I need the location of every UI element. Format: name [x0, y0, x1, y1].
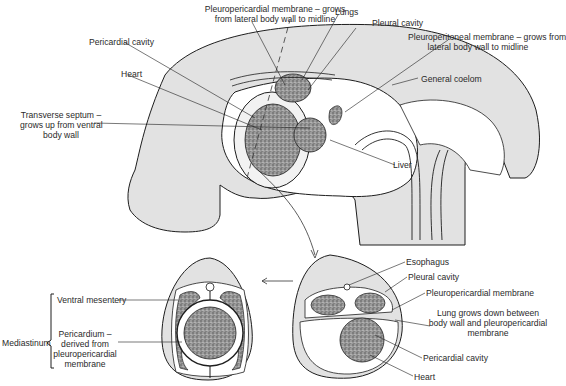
label-line: body wall and pleuropericardial — [428, 318, 548, 328]
label-line: Lung grows down between — [428, 308, 548, 318]
label-pericardium: Pericardium – derived from pleuropericar… — [52, 329, 118, 369]
heart-shape — [245, 104, 301, 176]
label-line: membrane — [52, 359, 118, 369]
left-arrow — [262, 278, 293, 284]
label-pleuroperitoneal-membrane: Pleuroperitoneal membrane – grows from l… — [408, 32, 548, 52]
cross-section-late — [162, 258, 252, 380]
label-pleural-cavity-bottom: Pleural cavity — [408, 272, 459, 282]
label-pericardial-cavity-bottom: Pericardial cavity — [423, 353, 488, 363]
label-ventral-mesentery: Ventral mesentery — [57, 295, 126, 305]
label-line: membrane — [428, 328, 548, 338]
label-esophagus: Esophagus — [406, 257, 449, 267]
label-line: lateral body wall to midline — [408, 42, 548, 52]
lung-shape — [275, 74, 311, 102]
embryo-sagittal-view — [128, 20, 540, 258]
label-line: grows up from ventral — [20, 120, 102, 130]
label-mediastinum: Mediastinum — [2, 338, 51, 348]
liver-shape — [294, 118, 326, 152]
label-lungs: Lungs — [335, 7, 358, 17]
label-transverse-septum: Transverse septum – grows up from ventra… — [20, 110, 102, 140]
label-line: Transverse septum – — [20, 110, 102, 120]
heart-section — [340, 318, 384, 362]
cross-section-early — [293, 255, 403, 378]
label-line: pleuropericardial — [52, 349, 118, 359]
label-heart-bottom: Heart — [414, 372, 435, 382]
label-line: Pericardium – — [52, 329, 118, 339]
label-line: derived from — [52, 339, 118, 349]
label-pleural-cavity-top: Pleural cavity — [372, 18, 423, 28]
label-heart-top: Heart — [121, 69, 142, 79]
label-line: body wall — [20, 130, 102, 140]
label-line: Pleuroperitoneal membrane – grows from — [408, 32, 548, 42]
label-liver: Liver — [393, 160, 412, 170]
label-pleuropericardial-membrane-bottom: Pleuropericardial membrane — [426, 288, 534, 298]
label-lung-grows-down: Lung grows down between body wall and pl… — [428, 308, 548, 338]
heart-section-late — [184, 307, 236, 359]
label-general-coelom: General coelom — [421, 74, 482, 84]
esophagus-shape-late — [206, 283, 214, 291]
label-pericardial-cavity-top: Pericardial cavity — [89, 37, 154, 47]
